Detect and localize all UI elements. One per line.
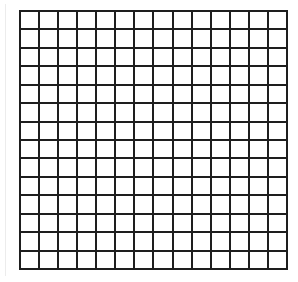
grid-cell[interactable] (174, 86, 193, 104)
grid-cell[interactable] (269, 178, 288, 196)
grid-cell[interactable] (250, 12, 269, 30)
grid-cell[interactable] (174, 159, 193, 177)
grid-cell[interactable] (231, 67, 250, 85)
grid-cell[interactable] (59, 67, 78, 85)
grid-cell[interactable] (174, 233, 193, 251)
grid-cell[interactable] (116, 252, 135, 270)
grid-cell[interactable] (154, 30, 173, 48)
grid-cell[interactable] (250, 215, 269, 233)
grid-cell[interactable] (78, 196, 97, 214)
grid-cell[interactable] (97, 86, 116, 104)
grid-cell[interactable] (78, 159, 97, 177)
grid-cell[interactable] (97, 196, 116, 214)
grid-cell[interactable] (97, 178, 116, 196)
grid-cell[interactable] (116, 233, 135, 251)
grid-cell[interactable] (174, 49, 193, 67)
grid-cell[interactable] (59, 123, 78, 141)
grid-cell[interactable] (97, 12, 116, 30)
grid-cell[interactable] (78, 123, 97, 141)
grid-cell[interactable] (97, 215, 116, 233)
grid-cell[interactable] (135, 86, 154, 104)
grid-cell[interactable] (193, 12, 212, 30)
grid-cell[interactable] (116, 67, 135, 85)
grid-cell[interactable] (174, 252, 193, 270)
grid-cell[interactable] (116, 215, 135, 233)
grid-cell[interactable] (135, 215, 154, 233)
grid-cell[interactable] (40, 215, 59, 233)
grid-cell[interactable] (174, 215, 193, 233)
grid-cell[interactable] (21, 123, 40, 141)
grid-cell[interactable] (154, 252, 173, 270)
grid-cell[interactable] (116, 104, 135, 122)
grid-cell[interactable] (193, 252, 212, 270)
grid-cell[interactable] (21, 30, 40, 48)
grid-cell[interactable] (78, 30, 97, 48)
grid-cell[interactable] (40, 141, 59, 159)
grid-cell[interactable] (97, 233, 116, 251)
grid-cell[interactable] (40, 49, 59, 67)
grid-cell[interactable] (59, 252, 78, 270)
grid-cell[interactable] (154, 233, 173, 251)
grid-cell[interactable] (21, 233, 40, 251)
grid-cell[interactable] (231, 49, 250, 67)
grid-cell[interactable] (135, 123, 154, 141)
grid-cell[interactable] (40, 159, 59, 177)
grid-cell[interactable] (231, 252, 250, 270)
grid-cell[interactable] (269, 30, 288, 48)
grid-cell[interactable] (135, 104, 154, 122)
grid-cell[interactable] (250, 159, 269, 177)
grid-cell[interactable] (250, 233, 269, 251)
game-grid-board[interactable] (19, 10, 288, 270)
grid-cell[interactable] (40, 178, 59, 196)
grid-cell[interactable] (250, 252, 269, 270)
grid-cell[interactable] (40, 67, 59, 85)
grid-cell[interactable] (174, 196, 193, 214)
grid-cell[interactable] (174, 104, 193, 122)
grid-cell[interactable] (78, 67, 97, 85)
grid-cell[interactable] (231, 123, 250, 141)
grid-cell[interactable] (40, 252, 59, 270)
grid-cell[interactable] (154, 12, 173, 30)
grid-cell[interactable] (21, 67, 40, 85)
grid-cell[interactable] (135, 30, 154, 48)
grid-cell[interactable] (59, 49, 78, 67)
grid-cell[interactable] (231, 86, 250, 104)
grid-cell[interactable] (78, 233, 97, 251)
grid-cell[interactable] (135, 141, 154, 159)
grid-cell[interactable] (193, 104, 212, 122)
grid-cell[interactable] (193, 215, 212, 233)
grid-cell[interactable] (97, 252, 116, 270)
grid-cell[interactable] (250, 141, 269, 159)
grid-cell[interactable] (21, 196, 40, 214)
grid-cell[interactable] (78, 178, 97, 196)
grid-cell[interactable] (97, 49, 116, 67)
grid-cell[interactable] (78, 86, 97, 104)
grid-cell[interactable] (59, 86, 78, 104)
grid-cell[interactable] (135, 196, 154, 214)
grid-cell[interactable] (250, 86, 269, 104)
grid-cell[interactable] (231, 178, 250, 196)
grid-cell[interactable] (231, 215, 250, 233)
grid-cell[interactable] (269, 252, 288, 270)
grid-cell[interactable] (174, 178, 193, 196)
grid-cell[interactable] (40, 233, 59, 251)
grid-cell[interactable] (174, 141, 193, 159)
grid-cell[interactable] (269, 123, 288, 141)
grid-cell[interactable] (59, 12, 78, 30)
grid-cell[interactable] (154, 196, 173, 214)
grid-cell[interactable] (231, 159, 250, 177)
grid-cell[interactable] (135, 233, 154, 251)
grid-cell[interactable] (250, 196, 269, 214)
grid-cell[interactable] (154, 178, 173, 196)
grid-cell[interactable] (116, 30, 135, 48)
grid-cell[interactable] (193, 178, 212, 196)
grid-cell[interactable] (269, 141, 288, 159)
grid-cell[interactable] (212, 104, 231, 122)
grid-cell[interactable] (231, 233, 250, 251)
grid-cell[interactable] (154, 141, 173, 159)
grid-cell[interactable] (116, 141, 135, 159)
grid-cell[interactable] (193, 233, 212, 251)
grid-cell[interactable] (212, 159, 231, 177)
grid-cell[interactable] (135, 12, 154, 30)
grid-cell[interactable] (154, 215, 173, 233)
